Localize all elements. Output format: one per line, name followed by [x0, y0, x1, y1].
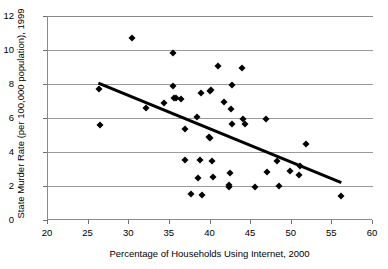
data-point: [181, 126, 188, 133]
data-point: [227, 105, 234, 112]
x-tick-mark: [169, 220, 170, 224]
x-tick-label: 50: [276, 228, 306, 238]
data-point: [196, 156, 203, 163]
data-point: [96, 121, 103, 128]
x-tick-label: 45: [235, 228, 265, 238]
data-point: [263, 169, 270, 176]
y-tick-label: 0: [0, 215, 14, 225]
gridline: [48, 16, 373, 17]
x-tick-label: 35: [154, 228, 184, 238]
data-point: [96, 86, 103, 93]
x-tick-mark: [291, 220, 292, 224]
data-point: [303, 140, 310, 147]
x-tick-label: 20: [32, 228, 62, 238]
data-point: [226, 170, 233, 177]
gridline: [48, 50, 373, 51]
y-axis-label: State Murder Rate (per 100,000 populatio…: [15, 2, 26, 226]
data-point: [296, 162, 303, 169]
data-point: [337, 193, 344, 200]
y-tick-label: 2: [0, 181, 14, 191]
x-tick-label: 40: [195, 228, 225, 238]
x-tick-label: 25: [73, 228, 103, 238]
y-tick-label: 8: [0, 79, 14, 89]
data-point: [262, 115, 269, 122]
y-tick-label: 6: [0, 113, 14, 123]
x-tick-mark: [47, 220, 48, 224]
data-point: [193, 114, 200, 121]
data-point: [221, 98, 228, 105]
x-tick-mark: [250, 220, 251, 224]
scatter-chart: State Murder Rate (per 100,000 populatio…: [0, 0, 388, 269]
x-tick-mark: [88, 220, 89, 224]
x-tick-label: 30: [113, 228, 143, 238]
data-point: [128, 35, 135, 42]
data-point: [209, 173, 216, 180]
data-point: [161, 99, 168, 106]
gridline: [48, 118, 373, 119]
data-point: [194, 175, 201, 182]
data-point: [275, 182, 282, 189]
data-point: [239, 64, 246, 71]
gridline: [48, 84, 373, 85]
data-point: [197, 90, 204, 97]
x-tick-mark: [210, 220, 211, 224]
y-tick-label: 12: [0, 11, 14, 21]
x-tick-mark: [128, 220, 129, 224]
data-point: [228, 120, 235, 127]
data-point: [214, 63, 221, 70]
data-point: [252, 183, 259, 190]
data-point: [182, 156, 189, 163]
data-point: [296, 171, 303, 178]
data-point: [274, 158, 281, 165]
data-point: [142, 104, 149, 111]
data-point: [198, 192, 205, 199]
x-tick-mark: [331, 220, 332, 224]
gridline: [48, 186, 373, 187]
data-point: [178, 96, 185, 103]
data-point: [287, 167, 294, 174]
x-tick-label: 55: [316, 228, 346, 238]
plot-area: [47, 16, 372, 220]
x-axis-label: Percentage of Households Using Internet,…: [47, 248, 372, 259]
y-tick-label: 10: [0, 45, 14, 55]
data-point: [228, 81, 235, 88]
data-point: [209, 158, 216, 165]
data-point: [241, 120, 248, 127]
gridline: [48, 152, 373, 153]
data-point: [187, 190, 194, 197]
y-tick-label: 4: [0, 147, 14, 157]
x-tick-mark: [372, 220, 373, 224]
x-tick-label: 60: [357, 228, 387, 238]
